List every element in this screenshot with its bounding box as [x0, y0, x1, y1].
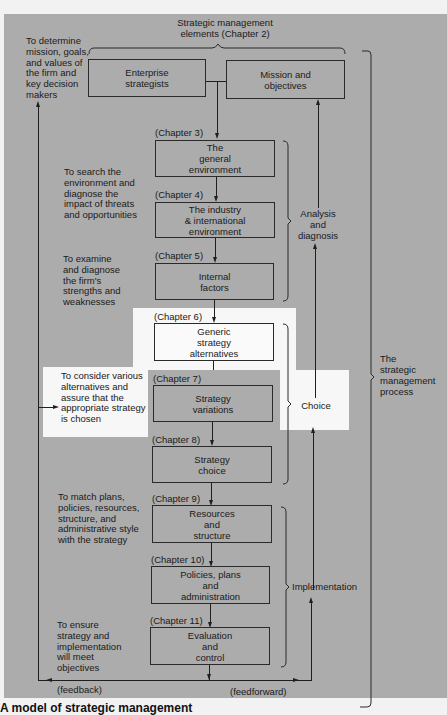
feedback-label: (feedback)	[57, 684, 102, 695]
policies-plans-box: Policies, plans and administration	[151, 566, 270, 604]
chapter-10-label: (Chapter 10)	[151, 554, 204, 565]
industry-environment-box: The industry & international environment	[155, 202, 275, 238]
arrow-left-icon	[46, 678, 52, 682]
resources-structure-box: Resources and structure	[152, 505, 272, 543]
process-bracket	[359, 50, 375, 715]
note-match-plans: To match plans, policies, resources, str…	[58, 492, 139, 546]
arrow-up-icon	[316, 99, 320, 105]
strategy-choice-box: Strategy choice	[152, 446, 272, 483]
implementation-to-choice-line	[313, 432, 314, 590]
note-mission: To determine mission, goals, and values …	[26, 36, 89, 101]
arrow-right-icon	[53, 405, 59, 409]
flow-line	[211, 543, 212, 563]
chapter-5-label: (Chapter 5)	[155, 250, 203, 261]
choice-label: Choice	[298, 400, 334, 411]
top-brace	[88, 43, 348, 55]
note-consider-alternatives: To consider various alternatives and ass…	[61, 371, 146, 425]
strategic-elements-label: Strategic management elements (Chapter 2…	[160, 17, 290, 39]
analysis-to-mission-line	[318, 104, 319, 208]
implementation-label: Implementation	[292, 581, 357, 592]
chapter-4-label: (Chapter 4)	[155, 189, 203, 200]
strategic-management-process-label: The strategic management process	[380, 353, 435, 397]
mission-objectives-box: Mission and objectives	[226, 60, 345, 99]
enterprise-strategists-box: Enterprise strategists	[88, 59, 206, 97]
figure-caption: A model of strategic management	[0, 701, 192, 715]
feedforward-label: (feedforward)	[230, 686, 287, 697]
internal-factors-box: Internal factors	[155, 263, 274, 300]
arrow-up-icon	[36, 101, 40, 107]
implementation-bracket	[281, 506, 291, 668]
flow-line	[210, 604, 211, 624]
chapter-3-label: (Chapter 3)	[155, 127, 203, 138]
arrow-up-icon	[309, 597, 313, 603]
note-ensure-strategy: To ensure strategy and implementation wi…	[57, 620, 121, 674]
feedforward-line-vertical	[311, 600, 312, 681]
connector-drop	[217, 81, 218, 134]
choice-to-analysis-line	[315, 248, 316, 398]
analysis-bracket	[283, 140, 293, 302]
note-search-environment: To search the environment and diagnose t…	[64, 167, 137, 221]
feedback-line-horizontal	[38, 680, 311, 681]
chapter-11-label: (Chapter 11)	[150, 615, 203, 626]
arrow-down-icon	[215, 133, 219, 139]
generic-strategy-box: Generic strategy alternatives	[154, 323, 274, 361]
arrow-up-icon	[313, 243, 317, 249]
note-examine-firm: To examine and diagnose the firm's stren…	[63, 254, 121, 308]
arrow-right-icon	[293, 678, 299, 682]
feedback-line-vertical	[38, 106, 39, 681]
choice-note-pointer	[38, 407, 54, 408]
arrow-up-icon	[311, 427, 315, 433]
choice-bracket	[283, 323, 293, 485]
general-environment-box: The general environment	[155, 140, 275, 177]
analysis-diagnosis-label: Analysis and diagnosis	[296, 208, 340, 241]
chapter-7-label: (Chapter 7)	[153, 373, 201, 384]
evaluation-control-box: Evaluation and control	[150, 627, 270, 665]
chapter-8-label: (Chapter 8)	[152, 434, 200, 445]
connector-line	[206, 81, 226, 82]
strategy-variations-box: Strategy variations	[153, 385, 273, 422]
chapter-6-label: (Chapter 6)	[154, 311, 202, 322]
chapter-9-label: (Chapter 9)	[152, 493, 200, 504]
